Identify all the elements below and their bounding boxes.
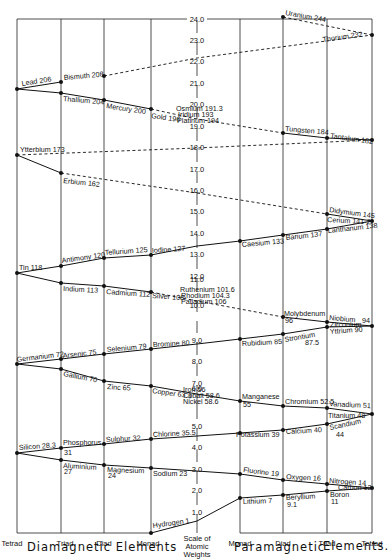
label-arsenic: Arsenic 75 [62,347,97,360]
label-scandium-weight: 44 [336,430,344,439]
periodic-diagram: 24.0 23.0 22.0 21.0 20.0 19.0 18.0 17.0 … [0,0,390,560]
scale-label-3: Weights [184,550,211,559]
svg-text:13.0: 13.0 [190,250,205,259]
label-chromium: Chromium 52.5 [285,397,334,406]
col-tetrad-left: Tetrad [2,539,23,548]
label-ytterbium: Ytterbium 173 [20,145,65,154]
label-fluorine: Fluorine 19 [243,465,280,478]
svg-text:4.0: 4.0 [192,443,202,452]
label-manganese-weight: 55 [243,400,251,409]
label-rubidium: Rubidium 85 [242,337,283,348]
label-thorium: Thorium 232 [322,29,363,44]
label-phosphorus-weight: 31 [64,448,72,457]
label-platinum: Platinum 194 [177,116,219,125]
svg-text:1.0: 1.0 [192,508,202,517]
svg-text:23.0: 23.0 [190,36,205,45]
label-lithium: Lithium 7 [243,496,272,506]
label-boron-weight: 11 [331,497,338,506]
label-antimony: Antimony 120 [61,250,106,265]
svg-text:24.0: 24.0 [190,15,205,24]
elements-title: Elements. [323,539,389,553]
label-bismuth: Bismuth 208 [63,70,104,82]
label-phosphorus: Phosphorus [63,438,102,447]
label-tin: Tin 118 [19,263,42,272]
label-oxygen: Oxygen 16 [286,472,321,483]
line-ytterbium-erbium [17,155,61,173]
label-tungsten: Tungsten 184 [285,124,329,137]
svg-text:14.0: 14.0 [190,229,205,238]
paramagnetic-title: Paramagnetic [234,540,325,554]
label-calcium: Calcium 40 [286,425,322,436]
label-mercury: Mercury 200 [106,101,147,116]
label-zinc: Zinc 65 [107,382,131,393]
diamagnetic-title: Diamagnetic Elements [27,540,177,554]
label-yttrium: Yttrium 90 [330,325,363,336]
svg-text:2.0: 2.0 [192,486,202,495]
svg-text:16.0: 16.0 [190,186,205,195]
label-palladium: Palladium 106 [181,297,227,306]
label-tantalum: Tantalum 182 [330,131,374,146]
svg-text:17.0: 17.0 [190,165,205,174]
label-iodine: Iodine 127 [152,244,186,255]
label-barium: Barium 137 [285,229,323,242]
svg-text:3.0: 3.0 [192,465,202,474]
label-gallium: Gallium 70 [63,369,98,384]
label-beryllium-weight: 9.1 [287,500,297,509]
label-nickel: Nickel 58.6 [183,397,219,406]
label-silicon: Silicon 28.3 [19,440,57,452]
svg-text:8.0: 8.0 [192,357,202,366]
svg-text:21.0: 21.0 [190,79,205,88]
label-potassium: Potassium 39 [236,430,280,439]
label-strontium-weight: 87.5 [305,338,319,347]
label-bromine: Bromine 80 [153,338,190,349]
label-chlorine: Chlorine 35.5 [153,428,196,439]
label-niobium-weight: 94 [362,316,370,325]
label-sodium: Sodium 23 [153,469,187,478]
svg-text:18.0: 18.0 [190,143,205,152]
label-caesium: Caesium 133 [241,236,284,249]
label-molybdenum-weight: 96 [285,316,293,325]
label-aluminium-weight: 27 [64,467,72,476]
label-thallium: Thallium 204 [63,94,105,107]
label-sulphur: Sulphur 32 [106,433,141,444]
label-cadmium: Cadmium 112 [106,287,151,299]
label-selenium: Selenium 79 [106,342,147,354]
label-indium: Indium 113 [63,284,98,295]
svg-text:11.0: 11.0 [190,275,204,284]
label-magnesium-weight: 24 [108,471,116,480]
svg-text:15.0: 15.0 [190,207,205,216]
label-vanadium: Vanadium 51 [329,399,371,410]
